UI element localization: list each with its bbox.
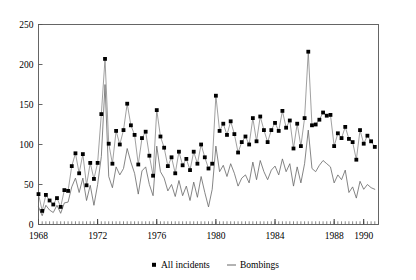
data-point-marker bbox=[295, 122, 299, 126]
data-point-marker bbox=[140, 136, 144, 140]
data-point-marker bbox=[55, 196, 59, 200]
data-point-marker bbox=[133, 133, 137, 137]
data-point-marker bbox=[192, 150, 196, 154]
data-point-marker bbox=[236, 151, 240, 155]
y-tick-label: 50 bbox=[24, 180, 34, 190]
data-point-marker bbox=[314, 123, 318, 127]
data-point-marker bbox=[37, 192, 41, 196]
data-point-marker bbox=[151, 174, 155, 178]
data-point-marker bbox=[273, 121, 277, 125]
data-point-marker bbox=[225, 133, 229, 137]
data-point-marker bbox=[107, 142, 111, 146]
data-point-marker bbox=[155, 108, 159, 112]
x-tick-label: 1988 bbox=[325, 231, 344, 241]
x-tick-label: 1984 bbox=[266, 231, 285, 241]
data-point-marker bbox=[188, 168, 192, 172]
data-point-marker bbox=[369, 139, 373, 143]
data-point-marker bbox=[144, 130, 148, 134]
data-point-marker bbox=[244, 135, 248, 139]
data-point-marker bbox=[281, 109, 285, 113]
legend-marker-all-incidents bbox=[152, 263, 156, 267]
chart-container: 050100150200250 196819721976198019841988… bbox=[0, 0, 416, 280]
data-point-marker bbox=[232, 132, 236, 136]
data-point-marker bbox=[266, 140, 270, 144]
data-point-marker bbox=[336, 131, 340, 135]
data-point-marker bbox=[118, 143, 122, 147]
data-point-marker bbox=[103, 57, 107, 61]
data-point-marker bbox=[59, 205, 63, 209]
data-point-marker bbox=[159, 135, 163, 139]
data-point-marker bbox=[354, 158, 358, 162]
data-point-marker bbox=[218, 129, 222, 133]
y-tick-label: 100 bbox=[19, 140, 34, 150]
data-point-marker bbox=[299, 144, 303, 148]
data-point-marker bbox=[99, 112, 103, 116]
data-point-marker bbox=[284, 126, 288, 130]
x-tick-label: 1968 bbox=[29, 231, 48, 241]
data-point-marker bbox=[88, 161, 92, 165]
data-point-marker bbox=[129, 123, 133, 127]
data-point-marker bbox=[181, 163, 185, 167]
legend-label-all-incidents: All incidents bbox=[161, 260, 210, 270]
data-point-marker bbox=[351, 140, 355, 144]
data-point-marker bbox=[329, 113, 333, 117]
data-point-marker bbox=[122, 128, 126, 132]
data-point-marker bbox=[317, 118, 321, 122]
data-point-marker bbox=[325, 114, 329, 118]
data-point-marker bbox=[288, 119, 292, 123]
data-point-marker bbox=[147, 154, 151, 158]
x-tick-label: 1976 bbox=[147, 231, 166, 241]
data-point-marker bbox=[196, 162, 200, 166]
data-point-marker bbox=[173, 171, 177, 175]
data-point-marker bbox=[303, 116, 307, 120]
data-point-marker bbox=[40, 209, 44, 213]
y-tick-label: 0 bbox=[29, 220, 34, 230]
data-point-marker bbox=[366, 134, 370, 138]
data-point-marker bbox=[210, 162, 214, 166]
y-tick-label: 150 bbox=[19, 100, 34, 110]
data-point-marker bbox=[92, 177, 96, 181]
data-point-marker bbox=[229, 119, 233, 123]
data-point-marker bbox=[44, 193, 48, 197]
data-point-marker bbox=[310, 123, 314, 127]
data-point-marker bbox=[251, 116, 255, 120]
data-point-marker bbox=[332, 144, 336, 148]
data-point-marker bbox=[306, 50, 310, 54]
data-point-marker bbox=[221, 122, 225, 126]
data-point-marker bbox=[48, 199, 52, 203]
data-point-marker bbox=[81, 152, 85, 156]
data-point-marker bbox=[358, 128, 362, 132]
data-point-marker bbox=[177, 150, 181, 154]
data-point-marker bbox=[111, 162, 115, 166]
data-point-marker bbox=[125, 102, 129, 106]
data-point-marker bbox=[70, 164, 74, 168]
x-tick-label: 1980 bbox=[206, 231, 225, 241]
data-point-marker bbox=[214, 94, 218, 98]
data-point-marker bbox=[199, 143, 203, 147]
data-point-marker bbox=[277, 129, 281, 133]
legend-label-bombings: Bombings bbox=[240, 260, 279, 270]
data-point-marker bbox=[77, 171, 81, 175]
data-point-marker bbox=[207, 167, 211, 171]
data-point-marker bbox=[166, 164, 170, 168]
data-point-marker bbox=[96, 161, 100, 165]
data-point-marker bbox=[85, 183, 89, 187]
data-point-marker bbox=[340, 136, 344, 140]
data-point-marker bbox=[51, 203, 55, 207]
data-point-marker bbox=[114, 129, 118, 133]
data-point-marker bbox=[62, 188, 66, 192]
incidents-timeseries-chart: 050100150200250 196819721976198019841988… bbox=[0, 0, 416, 280]
data-point-marker bbox=[136, 163, 140, 167]
y-tick-label: 250 bbox=[19, 20, 34, 30]
data-point-marker bbox=[170, 155, 174, 159]
y-tick-label: 200 bbox=[19, 60, 34, 70]
x-tick-label: 1972 bbox=[88, 231, 107, 241]
data-point-marker bbox=[262, 128, 266, 132]
data-point-marker bbox=[347, 137, 351, 141]
data-point-marker bbox=[255, 139, 259, 143]
data-point-marker bbox=[258, 115, 262, 119]
data-point-marker bbox=[66, 189, 70, 193]
x-tick-label: 1990 bbox=[354, 231, 373, 241]
data-point-marker bbox=[269, 128, 273, 132]
data-point-marker bbox=[240, 140, 244, 144]
